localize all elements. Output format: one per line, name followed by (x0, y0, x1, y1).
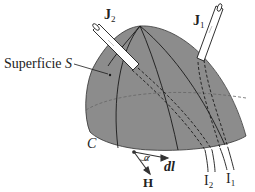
surface-label: Superficie S (4, 57, 72, 71)
dl-label: dl (164, 160, 175, 174)
j2-symbol: J (104, 7, 111, 22)
j1-subscript: 1 (200, 20, 205, 30)
ampere-law-diagram (0, 0, 255, 192)
j2-subscript: 2 (111, 14, 116, 24)
surface-symbol: S (65, 56, 72, 71)
wires-out (205, 148, 234, 172)
surface-label-text: Superficie (4, 56, 62, 71)
i1-subscript: 1 (231, 178, 236, 188)
vectors (133, 151, 168, 174)
contour-label: C (87, 137, 96, 151)
label-i2: I2 (204, 174, 213, 190)
i2-subscript: 2 (209, 180, 214, 190)
tube-j1 (197, 3, 223, 61)
h-label: H (143, 176, 153, 189)
label-i1: I1 (226, 172, 235, 188)
j1-symbol: J (193, 13, 200, 28)
angle-label: α (144, 153, 149, 163)
label-j2: J2 (104, 8, 116, 24)
label-j1: J1 (193, 14, 205, 30)
